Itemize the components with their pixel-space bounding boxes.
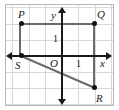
label-origin: O bbox=[50, 58, 58, 69]
label-s: S bbox=[15, 60, 21, 71]
label-r: R bbox=[96, 93, 103, 104]
vertex-point-s bbox=[19, 53, 24, 58]
arrow-down-icon bbox=[58, 99, 66, 105]
label-y-unit: 1 bbox=[53, 34, 58, 44]
label-p: P bbox=[18, 9, 25, 20]
grid-line-horizontal bbox=[6, 88, 113, 89]
label-y-axis: y bbox=[51, 10, 56, 21]
label-x-axis: x bbox=[100, 58, 105, 69]
label-q: Q bbox=[97, 9, 105, 20]
coordinate-plane-figure: P Q S R y x O 1 1 bbox=[0, 0, 119, 110]
arrow-up-icon bbox=[58, 7, 66, 13]
grid-line-horizontal bbox=[6, 40, 113, 41]
arrow-right-icon bbox=[106, 52, 112, 60]
x-axis bbox=[11, 55, 107, 57]
vertex-point-q bbox=[92, 21, 97, 26]
vertex-point-p bbox=[19, 21, 24, 26]
label-x-unit: 1 bbox=[76, 59, 81, 69]
segment-pq bbox=[21, 23, 95, 25]
y-axis bbox=[61, 12, 63, 100]
vertex-point-r bbox=[92, 85, 97, 90]
arrow-left-icon bbox=[6, 52, 12, 60]
